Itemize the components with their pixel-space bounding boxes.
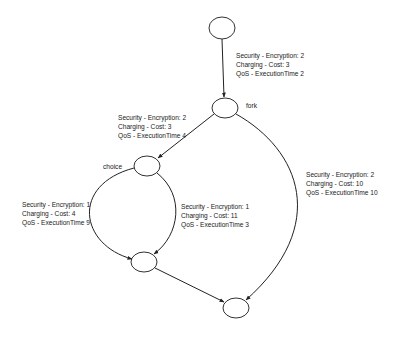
annotation-qos: QoS - ExecutionTime 10 <box>306 188 378 197</box>
annotation-charging: Charging - Cost: 3 <box>118 122 186 131</box>
annotation-security: Security - Encryption: 1 <box>181 202 249 211</box>
edge-choice-merge-right <box>154 173 176 254</box>
annotation-charging: Charging - Cost: 10 <box>306 179 378 188</box>
annotation-fork-choice: Security - Encryption: 2 Charging - Cost… <box>118 113 186 140</box>
annotation-qos: QoS - ExecutionTime 9 <box>22 218 90 227</box>
node-choice <box>134 156 160 176</box>
edge-start-fork <box>222 39 224 97</box>
annotation-start-fork: Security - Encryption: 2 Charging - Cost… <box>236 51 304 78</box>
annotation-security: Security - Encryption: 2 <box>306 170 378 179</box>
node-fork <box>212 98 238 118</box>
workflow-diagram <box>0 0 398 338</box>
annotation-charging: Charging - Cost: 11 <box>181 211 249 220</box>
edge-merge-end <box>155 268 224 302</box>
annotation-charging: Charging - Cost: 4 <box>22 209 90 218</box>
annotation-fork-end: Security - Encryption: 2 Charging - Cost… <box>306 170 378 197</box>
annotation-qos: QoS - ExecutionTime 2 <box>236 69 304 78</box>
annotation-choice-merge-right: Security - Encryption: 1 Charging - Cost… <box>181 202 249 229</box>
annotation-security: Security - Encryption: 1 <box>22 200 90 209</box>
annotation-security: Security - Encryption: 2 <box>236 51 304 60</box>
edge-choice-merge-left <box>89 168 134 259</box>
annotation-choice-merge-left: Security - Encryption: 1 Charging - Cost… <box>22 200 90 227</box>
annotation-qos: QoS - ExecutionTime 4 <box>118 131 186 140</box>
annotation-security: Security - Encryption: 2 <box>118 113 186 122</box>
node-merge <box>131 252 157 272</box>
node-label-fork: fork <box>246 102 257 109</box>
node-start <box>209 17 235 39</box>
node-end <box>223 298 249 318</box>
node-label-choice: choice <box>103 163 122 170</box>
annotation-qos: QoS - ExecutionTime 3 <box>181 220 249 229</box>
annotation-charging: Charging - Cost: 3 <box>236 60 304 69</box>
